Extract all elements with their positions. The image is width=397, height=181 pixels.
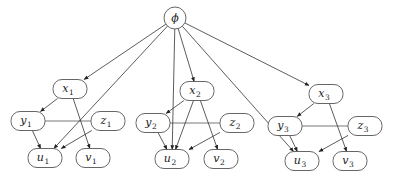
node-u1: u1 (28, 149, 62, 168)
node-v3: v3 (333, 152, 367, 171)
node-u3: u3 (285, 152, 319, 171)
node-v1: v1 (76, 149, 110, 168)
graphical-model-diagram: ϕx1y1z1u1v1x2y2z2u2v2x3y3z3u3v3 (0, 0, 397, 181)
node-x2: x2 (180, 82, 214, 101)
arrow-edge-y2-u2 (158, 133, 167, 150)
undirected-edges (45, 121, 348, 126)
arrow-edge-phi-x1 (84, 24, 166, 79)
arrow-edge-x2-u2 (175, 101, 193, 150)
arrow-edge-y1-u1 (32, 131, 40, 149)
node-z3: z3 (348, 117, 382, 136)
node-y3: y3 (268, 117, 302, 136)
node-u2: u2 (155, 150, 189, 169)
node-x3: x3 (309, 85, 343, 104)
arrow-edge-phi-x3 (185, 23, 309, 85)
node-z2: z2 (220, 114, 254, 133)
arrow-edge-x1-y1 (40, 99, 57, 112)
arrow-edge-phi-u2 (172, 29, 175, 150)
arrow-edge-x3-y3 (297, 104, 314, 117)
arrow-edge-z2-u2 (189, 132, 220, 149)
arrow-edge-y3-u3 (290, 136, 298, 152)
nodes: ϕx1y1z1u1v1x2y2z2u2v2x3y3z3u3v3 (11, 7, 382, 171)
arrow-edge-x2-y2 (166, 101, 184, 114)
node-label: ϕ (171, 12, 179, 25)
node-v2: v2 (204, 150, 238, 169)
node-z1: z1 (91, 112, 125, 131)
node-phi: ϕ (164, 7, 186, 29)
node-x1: x1 (53, 80, 87, 99)
node-y1: y1 (11, 112, 45, 131)
node-y2: y2 (136, 114, 170, 133)
arrow-edge-x1-v1 (73, 99, 90, 149)
